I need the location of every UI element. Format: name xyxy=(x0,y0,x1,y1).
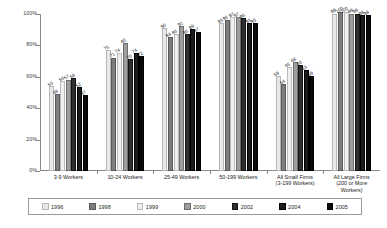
category-label-line: (3-199 Workers) xyxy=(268,180,323,186)
bar[interactable]: 97 xyxy=(236,17,241,171)
bar[interactable]: 74 xyxy=(117,53,122,171)
bar[interactable]: 63 xyxy=(304,70,309,171)
bar-chart: 0%20%40%60%80%100% 534856575852477671748… xyxy=(0,0,387,228)
bar[interactable]: 76 xyxy=(106,50,111,171)
bar[interactable]: 93 xyxy=(247,23,252,171)
bar-value-label: 74 xyxy=(115,48,122,55)
bar-slot: 87 xyxy=(196,32,201,171)
bar-group: 53485657585247 xyxy=(40,14,97,171)
y-axis-tick-label: 0% xyxy=(29,167,37,173)
bar-slot: 54 xyxy=(281,84,286,171)
bar[interactable]: 59 xyxy=(309,76,314,171)
bar[interactable]: 65 xyxy=(287,67,292,171)
bar-slot: 68 xyxy=(293,62,298,171)
bar[interactable]: 98 xyxy=(366,15,371,171)
bar-slot: 95 xyxy=(225,20,230,171)
y-axis-tick-label: 20% xyxy=(26,136,37,142)
bar[interactable]: 86 xyxy=(174,34,179,171)
legend-label: 1999 xyxy=(146,204,158,210)
bar[interactable]: 58 xyxy=(71,78,76,171)
bar-value-label: 47 xyxy=(81,90,88,97)
bar-slot: 74 xyxy=(117,53,122,171)
bar-slot: 99 xyxy=(349,14,354,171)
legend-item[interactable]: 1998 xyxy=(89,203,110,210)
legend-item[interactable]: 2002 xyxy=(232,203,253,210)
bar-slot: 48 xyxy=(55,94,60,171)
bar[interactable]: 99 xyxy=(349,14,354,171)
bar[interactable]: 84 xyxy=(168,37,173,171)
bar[interactable]: 72 xyxy=(139,56,144,171)
bar[interactable]: 91 xyxy=(179,26,184,171)
bar[interactable]: 70 xyxy=(128,59,133,171)
bar[interactable]: 66 xyxy=(298,65,303,171)
category-label-line: 10-24 Workers xyxy=(98,174,153,180)
bar-slot: 90 xyxy=(162,28,167,171)
bar-slot: 58 xyxy=(71,78,76,171)
bar[interactable]: 97 xyxy=(230,17,235,171)
bar[interactable]: 53 xyxy=(49,86,54,171)
bar[interactable]: 80 xyxy=(123,43,128,171)
bar[interactable]: 59 xyxy=(276,76,281,171)
legend-item[interactable]: 2004 xyxy=(279,203,300,210)
bar[interactable]: 100 xyxy=(344,12,349,171)
bar-slot: 66 xyxy=(298,65,303,171)
bar-group: 93959797969393 xyxy=(210,14,267,171)
bar-slot: 98 xyxy=(360,15,365,171)
category-axis-labels: 3-9 Workers10-24 Workers25-49 Workers50-… xyxy=(40,174,380,193)
bar[interactable]: 99 xyxy=(332,14,337,171)
chart-legend: 1996199819992000200220042005 xyxy=(28,198,362,215)
bar[interactable]: 93 xyxy=(253,23,258,171)
bar[interactable]: 48 xyxy=(55,94,60,171)
bar[interactable]: 54 xyxy=(281,84,286,171)
bar[interactable]: 71 xyxy=(111,58,116,171)
bar[interactable]: 89 xyxy=(190,29,195,171)
bar-value-label: 80 xyxy=(120,39,127,46)
bar[interactable]: 95 xyxy=(225,20,230,171)
bar-slot: 100 xyxy=(338,12,343,171)
bar-slot: 97 xyxy=(230,17,235,171)
bar-slot: 53 xyxy=(49,86,54,171)
bar-slot: 59 xyxy=(309,76,314,171)
bar-value-label: 65 xyxy=(285,62,292,69)
bar-slot: 96 xyxy=(241,18,246,171)
legend-item[interactable]: 1996 xyxy=(42,203,63,210)
bar-slot: 57 xyxy=(66,80,71,171)
bar-slot: 93 xyxy=(219,23,224,171)
category-label-line: 25-49 Workers xyxy=(154,174,209,180)
category-label: 3-9 Workers xyxy=(40,174,97,193)
bar[interactable]: 90 xyxy=(162,28,167,171)
bar-group: 59546568666359 xyxy=(267,14,324,171)
bar[interactable]: 87 xyxy=(196,32,201,171)
bar[interactable]: 96 xyxy=(241,18,246,171)
legend-item[interactable]: 2005 xyxy=(327,203,348,210)
bar[interactable]: 57 xyxy=(66,80,71,171)
legend-item[interactable]: 2000 xyxy=(184,203,205,210)
legend-swatch xyxy=(42,203,49,210)
bar[interactable]: 68 xyxy=(293,62,298,171)
bar-value-label: 93 xyxy=(251,18,258,25)
legend-item[interactable]: 1999 xyxy=(137,203,158,210)
y-axis-tick-label: 100% xyxy=(23,10,37,16)
bar-slot: 93 xyxy=(253,23,258,171)
y-axis-tick-label: 80% xyxy=(26,41,37,47)
category-label: All Small Firms(3-199 Workers) xyxy=(267,174,324,193)
bar[interactable]: 74 xyxy=(134,53,139,171)
bar-slot: 80 xyxy=(123,43,128,171)
bar-value-label: 72 xyxy=(137,51,144,58)
bar[interactable]: 86 xyxy=(185,34,190,171)
category-label: 50-199 Workers xyxy=(210,174,267,193)
bar[interactable]: 93 xyxy=(219,23,224,171)
bar[interactable]: 52 xyxy=(77,87,82,171)
bar[interactable]: 47 xyxy=(83,95,88,171)
category-label-line: 50-199 Workers xyxy=(211,174,266,180)
legend-swatch xyxy=(137,203,144,210)
bar[interactable]: 99 xyxy=(355,14,360,171)
bar-slot: 72 xyxy=(139,56,144,171)
bar-slot: 76 xyxy=(106,50,111,171)
legend-label: 2004 xyxy=(288,204,300,210)
bar[interactable]: 100 xyxy=(338,12,343,171)
legend-swatch xyxy=(327,203,334,210)
bar[interactable]: 56 xyxy=(60,81,65,171)
bar[interactable]: 98 xyxy=(360,15,365,171)
category-label: 25-49 Workers xyxy=(153,174,210,193)
